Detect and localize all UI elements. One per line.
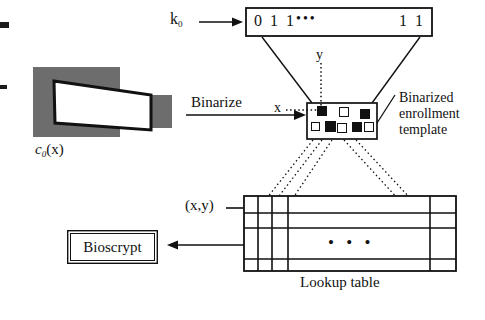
bioscrypt-box: Bioscrypt (70, 233, 155, 261)
lookup-input-label: (x,y) (185, 198, 214, 214)
template-label-line3: template (399, 122, 460, 138)
key-label-base: k (170, 10, 178, 27)
binarize-arrow-head (294, 110, 306, 120)
template-label-line1: Binarized (399, 90, 460, 106)
template-square (352, 122, 362, 132)
template-label-leader (377, 95, 395, 123)
template-square (311, 122, 320, 131)
key-label-subscript: 0 (178, 19, 183, 29)
bitstring-left: 0 1 1 (254, 13, 296, 30)
bioscrypt-label: Bioscrypt (83, 239, 141, 256)
template-square (337, 123, 347, 133)
template-square (339, 107, 349, 117)
lookup-table-caption: Lookup table (300, 275, 380, 291)
x-axis-label: x (274, 101, 281, 116)
vector-layer (0, 0, 485, 320)
y-axis-label: y (316, 48, 323, 63)
template-square (325, 121, 336, 132)
diagram-canvas: k0 0 1 1 ••• 1 1 c0(x) Binarize x y Bina… (0, 0, 485, 320)
funnel-line-left (262, 37, 312, 103)
source-image-caption: c0(x) (35, 142, 64, 159)
template-square (360, 109, 370, 119)
template-square-field (307, 103, 377, 139)
source-caption-base: c (35, 141, 42, 157)
lookup-table-ellipsis: • • • (328, 234, 374, 252)
template-square (317, 106, 327, 116)
template-label: Binarized enrollment template (399, 90, 460, 138)
binarize-label: Binarize (191, 95, 242, 111)
bitstring-ellipsis: ••• (296, 12, 317, 27)
bioscrypt-arrow-head (167, 241, 178, 250)
template-label-line2: enrollment (399, 106, 460, 122)
bitstring-right: 1 1 (399, 13, 425, 30)
key-arrow-head (232, 18, 243, 27)
source-image-quad (54, 81, 151, 130)
template-square (364, 122, 374, 132)
key-label: k0 (170, 11, 183, 29)
source-caption-tail: (x) (46, 141, 64, 157)
